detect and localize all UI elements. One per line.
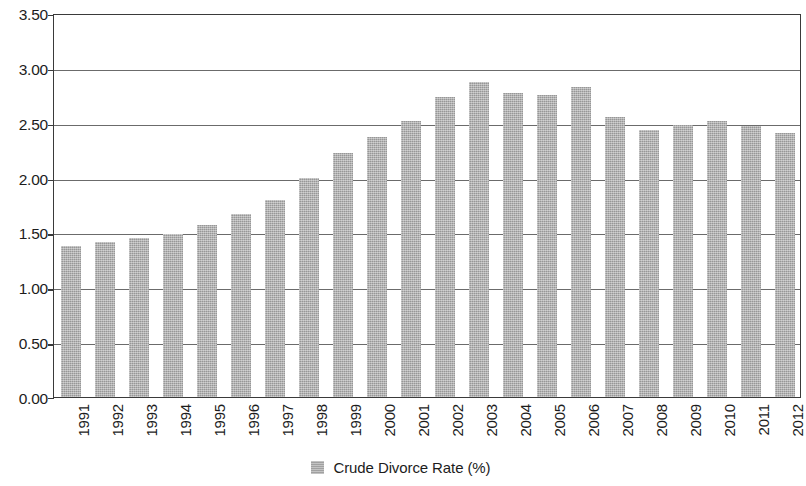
bar [673, 125, 693, 397]
bar [265, 200, 285, 397]
bar [333, 153, 353, 397]
y-tick-label: 3.50 [0, 7, 48, 23]
y-tick-label: 3.00 [0, 62, 48, 78]
bar [197, 225, 217, 397]
x-tick-label: 1994 [178, 404, 193, 464]
bar [163, 234, 183, 397]
x-tick-label: 2007 [620, 404, 635, 464]
bar [401, 121, 421, 397]
x-tick-label: 1991 [76, 404, 91, 464]
y-tick-label: 2.50 [0, 117, 48, 133]
y-tick-label: 1.50 [0, 226, 48, 242]
x-tick-label: 2010 [722, 404, 737, 464]
bar [707, 121, 727, 397]
bar [95, 242, 115, 397]
x-tick-label: 1998 [314, 404, 329, 464]
x-tick-label: 2011 [756, 404, 771, 464]
x-tick-label: 2012 [790, 404, 805, 464]
x-tick-label: 2000 [382, 404, 397, 464]
x-tick-label: 2009 [688, 404, 703, 464]
y-tick-label: 1.00 [0, 281, 48, 297]
x-tick-label: 1992 [110, 404, 125, 464]
x-tick-label: 1995 [212, 404, 227, 464]
x-tick-label: 2003 [484, 404, 499, 464]
x-tick-label: 1997 [280, 404, 295, 464]
bars-group [54, 15, 800, 397]
bar [129, 238, 149, 397]
x-tick-label: 2008 [654, 404, 669, 464]
plot-area [53, 14, 801, 398]
x-tick-label: 2004 [518, 404, 533, 464]
x-tick-label: 2005 [552, 404, 567, 464]
bar [435, 97, 455, 397]
chart-legend: Crude Divorce Rate (%) [0, 460, 802, 475]
bar [775, 133, 795, 397]
legend-label: Crude Divorce Rate (%) [333, 460, 490, 475]
y-tick-label: 2.00 [0, 172, 48, 188]
bar [605, 117, 625, 397]
bar [367, 137, 387, 397]
x-tick-label: 1993 [144, 404, 159, 464]
bar [503, 93, 523, 397]
bar [61, 246, 81, 397]
y-tick-label: 0.00 [0, 391, 48, 407]
bar [571, 87, 591, 397]
x-tick-label: 1999 [348, 404, 363, 464]
y-tick-label: 0.50 [0, 336, 48, 352]
bar [639, 130, 659, 397]
x-tick-label: 2006 [586, 404, 601, 464]
bar [231, 214, 251, 397]
y-axis: 3.503.002.502.001.501.000.500.00 [0, 0, 48, 486]
x-axis: 1991199219931994199519961997199819992000… [53, 398, 801, 454]
bar [299, 178, 319, 397]
x-tick-label: 1996 [246, 404, 261, 464]
bar [537, 95, 557, 397]
bar [741, 126, 761, 397]
bar [469, 82, 489, 397]
x-tick-label: 2001 [416, 404, 431, 464]
x-tick-label: 2002 [450, 404, 465, 464]
legend-swatch-icon [311, 461, 324, 474]
